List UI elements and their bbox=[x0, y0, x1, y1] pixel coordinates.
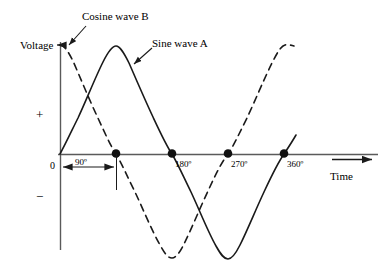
x-axis-label: Time bbox=[330, 171, 353, 182]
tick-label-180: 180º bbox=[175, 160, 191, 169]
cosine-wave-b-curve bbox=[60, 45, 294, 258]
origin-tick-label: 0 bbox=[50, 161, 55, 171]
zero-crossing-marker-180 bbox=[168, 149, 177, 158]
sine-wave-a-curve bbox=[60, 46, 296, 259]
zero-crossing-marker-270 bbox=[224, 149, 233, 158]
tick-label-270: 270º bbox=[231, 160, 247, 169]
y-axis-label: Voltage bbox=[20, 40, 53, 51]
negative-polarity-label: − bbox=[36, 190, 43, 203]
sine-callout-leader bbox=[134, 48, 152, 64]
waveform-figure: Voltage Cosine wave B Sine wave A Time +… bbox=[0, 0, 382, 269]
positive-polarity-label: + bbox=[36, 108, 43, 121]
tick-label-360: 360º bbox=[287, 160, 303, 169]
cosine-wave-callout-label: Cosine wave B bbox=[82, 11, 149, 22]
cosine-callout-leader bbox=[69, 26, 86, 45]
zero-crossing-marker-360 bbox=[280, 149, 289, 158]
sine-wave-callout-label: Sine wave A bbox=[152, 38, 208, 49]
quarter-span-label: 90º bbox=[75, 158, 87, 167]
